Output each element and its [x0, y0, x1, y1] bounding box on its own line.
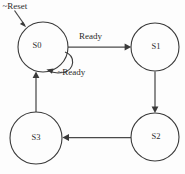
state-label-s2: S2 [152, 131, 161, 141]
transition-s2-to-s3 [62, 134, 131, 141]
s2-s3-arrowhead [62, 134, 69, 141]
state-label-s0: S0 [33, 40, 42, 50]
diagram-canvas: S0 S1 S2 S3 ~Reset Ready ~Ready [0, 0, 185, 174]
edge-label-reset: ~Reset [3, 1, 28, 11]
transition-s0-to-s1 [68, 44, 131, 51]
state-machine-diagram: S0 S1 S2 S3 ~Reset Ready ~Ready [0, 0, 185, 174]
edge-label-not-ready: ~Ready [58, 67, 86, 77]
s0-s1-arrowhead [125, 44, 132, 51]
state-label-s3: S3 [32, 132, 41, 142]
edge-label-ready: Ready [79, 31, 102, 41]
reset-entry-arrowhead [20, 22, 26, 28]
state-node-s0[interactable] [18, 22, 68, 72]
transition-s1-to-s2 [152, 72, 159, 114]
transition-s3-to-s0 [33, 72, 40, 113]
s1-s2-arrowhead [152, 106, 159, 113]
s3-s0-arrowhead [33, 72, 40, 79]
state-label-s1: S1 [152, 41, 161, 51]
transition-reset-entry [15, 11, 27, 28]
